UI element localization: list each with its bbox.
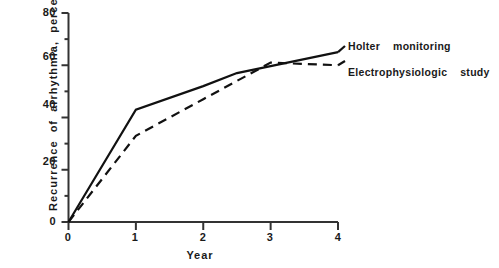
- legend-leader-electrophysiologic-study: [338, 61, 345, 65]
- x-tick-label-3: 3: [260, 231, 280, 243]
- series-group: [69, 46, 346, 222]
- y-tick-label-0: 0: [30, 215, 56, 227]
- x-tick-label-4: 4: [328, 231, 348, 243]
- x-tick-label-1: 1: [125, 231, 145, 243]
- legend-label-electrophysiologic-study: Electrophysiologic study: [348, 66, 490, 78]
- x-tick-label-2: 2: [193, 231, 213, 243]
- x-tick-label-0: 0: [58, 231, 78, 243]
- legend-label-holter-monitoring: Holter monitoring: [348, 40, 451, 52]
- y-axis-title: Recurrence of arrhythmia, percent: [47, 11, 59, 211]
- legend-leader-holter-monitoring: [338, 46, 345, 52]
- chart-figure: 80 60 40 20 0 0 1 2 3 4 Recurrence of ar…: [0, 0, 499, 268]
- axis-group: [62, 13, 339, 230]
- series-line-holter-monitoring: [69, 52, 339, 222]
- x-axis-title: Year: [160, 249, 240, 261]
